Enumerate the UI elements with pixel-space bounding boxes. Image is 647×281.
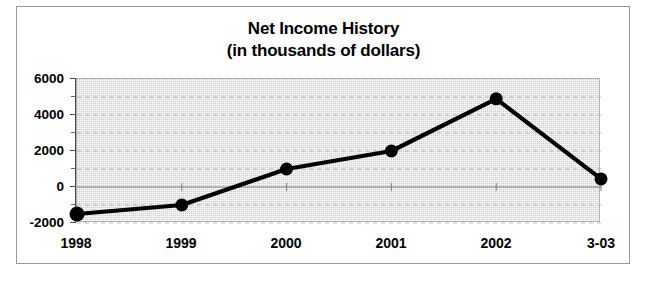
y-tick-minor-1000 [71,168,75,169]
x-axis-label-1998: 1998 [60,235,91,251]
x-axis-label-1999: 1999 [165,235,196,251]
x-axis-label-2002: 2002 [480,235,511,251]
data-markers [70,92,608,221]
chart-title-line-2: (in thousands of dollars) [0,40,647,62]
y-axis-label--2000: -2000 [29,215,64,230]
x-axis-label-3-03: 3-03 [587,235,615,251]
y-axis-label-2000: 2000 [34,143,64,158]
y-axis-label-6000: 6000 [34,71,64,86]
data-point-marker [490,92,503,105]
data-point-marker [175,199,188,212]
y-tick-minor--1000 [71,204,75,205]
y-tick-minor-5000 [71,96,75,97]
chart-figure: Net Income History (in thousands of doll… [0,0,647,281]
plot-svg [77,79,601,223]
y-tick-minor-3000 [71,132,75,133]
y-tick--2000 [70,222,76,223]
chart-title-line-1: Net Income History [0,18,647,40]
y-axis-label-4000: 4000 [34,107,64,122]
data-point-marker [385,145,398,158]
x-axis-label-2000: 2000 [270,235,301,251]
data-point-marker [280,163,293,176]
plot-area [76,78,600,222]
data-line [77,99,601,214]
data-point-marker [70,207,85,222]
data-point-marker [595,172,608,185]
x-axis-label-2001: 2001 [375,235,406,251]
chart-title: Net Income History (in thousands of doll… [0,18,647,62]
y-axis-label-0: 0 [56,179,64,194]
